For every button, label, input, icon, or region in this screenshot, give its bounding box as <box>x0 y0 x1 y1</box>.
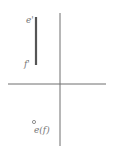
point-ef-top-view <box>32 120 35 123</box>
label-e-prime: e' <box>26 15 34 25</box>
label-e-f: e(f) <box>34 125 50 135</box>
label-f-prime: f' <box>23 59 30 69</box>
projection-diagram: e' f' e(f) <box>0 0 115 153</box>
